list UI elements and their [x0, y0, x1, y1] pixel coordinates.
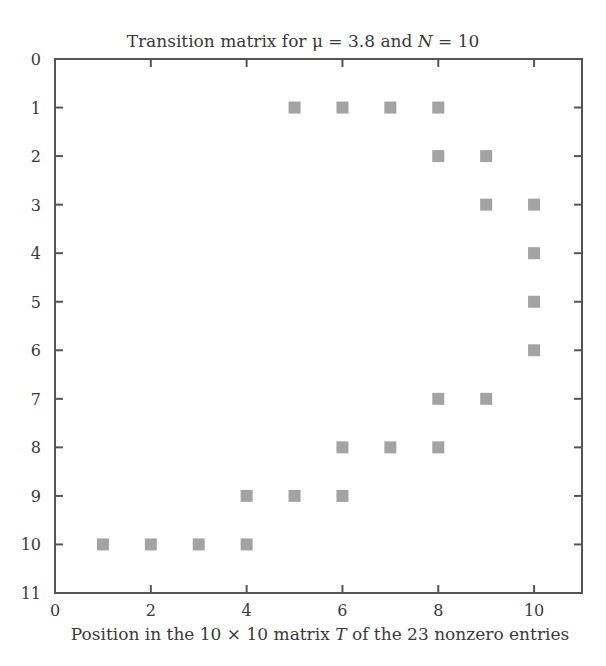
y-tick-label: 0 [31, 50, 41, 69]
data-point-marker [432, 150, 444, 162]
data-point-marker [528, 344, 540, 356]
y-tick-label: 1 [31, 99, 41, 118]
data-point-marker [432, 393, 444, 405]
x-tick-label: 4 [242, 601, 252, 620]
y-tick-label: 4 [31, 244, 41, 263]
data-point-marker [289, 490, 301, 502]
data-point-marker [336, 441, 348, 453]
x-tick-label: 2 [146, 601, 156, 620]
x-axis-ticks: 0246810 [50, 59, 544, 620]
plot-area: 0246810 01234567891011 [0, 0, 606, 666]
data-point-marker [336, 490, 348, 502]
data-point-marker [97, 538, 109, 550]
data-point-marker [241, 490, 253, 502]
data-point-marker [384, 441, 396, 453]
data-point-marker [480, 199, 492, 211]
data-point-marker [289, 102, 301, 114]
data-point-marker [480, 150, 492, 162]
data-point-marker [432, 441, 444, 453]
x-tick-label: 0 [50, 601, 60, 620]
x-axis-label-italic: T [335, 624, 346, 644]
x-axis-label: Position in the 10 × 10 matrix T of the … [55, 624, 585, 644]
y-tick-label: 8 [31, 438, 41, 457]
data-point-marker [528, 247, 540, 259]
y-tick-label: 5 [31, 293, 41, 312]
data-point-marker [193, 538, 205, 550]
x-axis-label-prefix: Position in the 10 × 10 matrix [71, 624, 335, 644]
y-tick-label: 11 [21, 584, 41, 603]
data-point-marker [384, 102, 396, 114]
data-point-marker [480, 393, 492, 405]
x-tick-label: 10 [524, 601, 544, 620]
y-tick-label: 10 [21, 535, 41, 554]
x-axis-label-suffix: of the 23 nonzero entries [347, 624, 570, 644]
data-point-marker [336, 102, 348, 114]
y-tick-label: 3 [31, 196, 41, 215]
y-tick-label: 2 [31, 147, 41, 166]
y-axis-ticks: 01234567891011 [21, 50, 582, 603]
data-point-marker [145, 538, 157, 550]
data-point-marker [432, 102, 444, 114]
plot-frame [55, 59, 582, 593]
data-point-marker [528, 296, 540, 308]
y-tick-label: 9 [31, 487, 41, 506]
data-markers [97, 102, 540, 551]
data-point-marker [241, 538, 253, 550]
data-point-marker [528, 199, 540, 211]
x-tick-label: 6 [337, 601, 347, 620]
x-tick-label: 8 [433, 601, 443, 620]
y-tick-label: 7 [31, 390, 41, 409]
y-tick-label: 6 [31, 341, 41, 360]
